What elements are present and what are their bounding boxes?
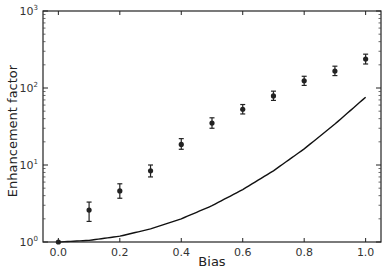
data-point [302,76,307,85]
x-tick-label: 0.4 [173,246,191,259]
data-point [363,54,368,64]
marker [332,68,337,73]
marker [86,207,91,212]
y-tick-label: 103 [20,4,38,18]
data-point [179,139,184,150]
y-axis-label: Enhancement factor [5,64,20,197]
data-point [240,105,245,114]
y-tick-label: 100 [20,235,38,249]
marker [117,188,122,193]
marker [148,168,153,173]
marker [240,107,245,112]
marker [271,93,276,98]
data-point [332,66,337,75]
data-point [271,91,276,100]
data-point [117,184,122,198]
data-point [209,118,214,128]
x-tick-label: 1.0 [357,246,375,259]
marker [209,121,214,126]
y-tick-label: 101 [20,158,38,172]
marker [302,78,307,83]
data-point [86,202,91,221]
x-tick-label: 0.2 [111,246,129,259]
x-axis-ticks: 0.00.20.40.60.81.0 [50,11,375,259]
y-tick-label: 102 [20,81,38,95]
marker [363,56,368,61]
enhancement-factor-chart: 0.00.20.40.60.81.0 100101102103 Bias Enh… [0,0,389,271]
y-axis-ticks: 100101102103 [20,4,381,249]
measured-series [56,54,368,244]
x-tick-label: 0.8 [295,246,313,259]
marker [179,142,184,147]
x-tick-label: 0.0 [50,246,68,259]
data-point [148,165,153,177]
x-axis-label: Bias [198,254,225,269]
x-tick-label: 0.6 [234,246,252,259]
